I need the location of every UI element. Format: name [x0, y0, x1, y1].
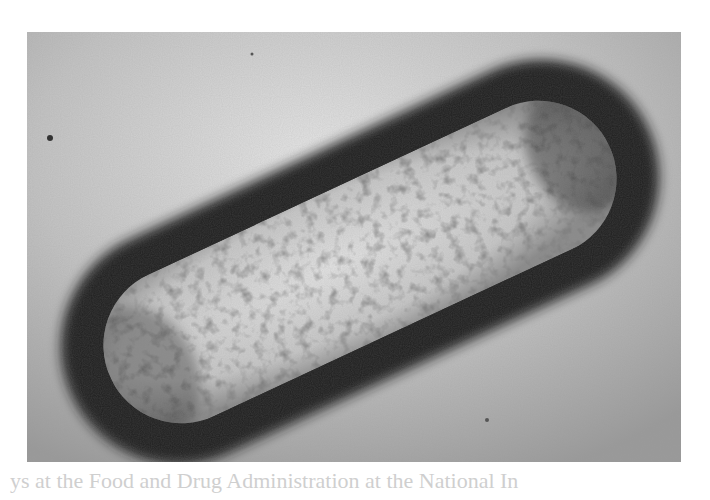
bacterium-illustration — [27, 32, 681, 462]
bleed-through-text: ys at the Food and Drug Administration a… — [10, 468, 518, 494]
micrograph-photo — [27, 32, 681, 462]
